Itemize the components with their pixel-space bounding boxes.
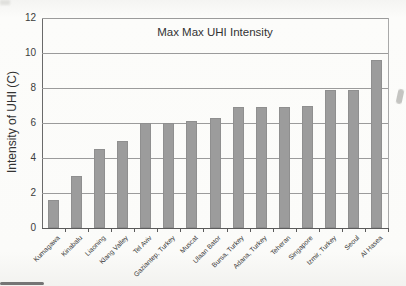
y-tick-label: 12 — [6, 12, 36, 24]
x-axis-tick — [365, 228, 366, 232]
x-axis-tick — [319, 228, 320, 232]
scan-shadow-top-left — [0, 0, 10, 5]
y-tick-label: 10 — [6, 47, 36, 59]
bar — [302, 106, 313, 229]
x-tick-label: Kinabalu — [60, 234, 84, 258]
x-tick-label: Kumagawa — [31, 234, 60, 263]
x-axis-tick — [134, 228, 135, 232]
x-axis-tick — [111, 228, 112, 232]
x-axis-tick — [227, 228, 228, 232]
x-tick-label: Gaziantep, Turkey — [132, 234, 176, 278]
x-axis-tick — [88, 228, 89, 232]
bar — [233, 107, 244, 228]
x-axis-line — [42, 228, 389, 229]
bar — [94, 149, 105, 228]
bar — [71, 176, 82, 229]
chart-title: Max Max UHI Intensity — [42, 26, 388, 38]
bar — [348, 90, 359, 228]
x-axis-tick — [342, 228, 343, 232]
x-tick-label: Al Hasea — [359, 234, 383, 258]
y-tick-label: 6 — [6, 117, 36, 129]
scan-smudge-bottom-left — [0, 282, 44, 285]
x-axis-tick — [388, 228, 389, 232]
bar — [256, 107, 267, 228]
plot-right-border — [388, 18, 389, 228]
x-tick-label: Muscat — [178, 234, 198, 254]
x-axis-tick — [296, 228, 297, 232]
bar — [140, 123, 151, 228]
x-tick-label: Tel Aviv — [132, 234, 153, 255]
bar — [186, 121, 197, 228]
scan-mark-right-edge — [396, 89, 405, 105]
y-tick-label: 0 — [6, 222, 36, 234]
x-axis-tick — [250, 228, 251, 232]
x-axis-tick — [157, 228, 158, 232]
y-tick-label: 8 — [6, 82, 36, 94]
bar — [117, 141, 128, 229]
x-axis-tick — [273, 228, 274, 232]
gridline-y-12 — [42, 18, 388, 19]
uhi-bar-chart: Max Max UHI Intensity Intensity of UHI (… — [0, 0, 406, 286]
bar — [48, 200, 59, 228]
bar — [279, 107, 290, 228]
x-tick-label: Seoul — [343, 234, 360, 251]
x-axis-tick — [203, 228, 204, 232]
x-axis-tick — [65, 228, 66, 232]
x-axis-tick — [180, 228, 181, 232]
x-tick-label: Teheran — [269, 234, 291, 256]
gridline-y-10 — [42, 53, 388, 54]
gridline-y-8 — [42, 88, 388, 89]
bar — [325, 90, 336, 228]
bar — [210, 118, 221, 228]
y-tick-label: 2 — [6, 187, 36, 199]
y-tick-label: 4 — [6, 152, 36, 164]
bar — [163, 123, 174, 228]
bar — [371, 60, 382, 228]
